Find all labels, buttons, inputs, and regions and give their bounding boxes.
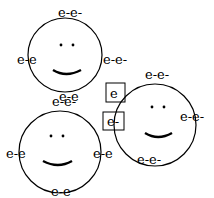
face-bottom-left xyxy=(19,111,101,193)
eye-icon xyxy=(72,44,75,47)
label: e-e- xyxy=(103,52,127,67)
face-outline xyxy=(19,111,101,193)
label: e-e- xyxy=(145,67,169,82)
eye-icon xyxy=(151,106,154,109)
smile-icon xyxy=(145,133,172,137)
eye-icon xyxy=(60,44,63,47)
box-label: e- xyxy=(107,114,119,129)
label: e-e xyxy=(93,146,113,161)
eye-icon xyxy=(62,135,65,138)
smile-icon xyxy=(43,161,72,165)
smile-icon xyxy=(53,70,81,74)
diagram-canvas: e-e- e-e e-e- e-e e-e- e-e e-e e-e e-e- … xyxy=(0,0,214,198)
label: e-e xyxy=(6,146,26,161)
label: e-e- xyxy=(58,5,82,20)
label: e-e xyxy=(51,184,71,198)
label: e-e- xyxy=(180,109,204,124)
label: e-e- xyxy=(137,152,161,167)
eye-icon xyxy=(163,106,166,109)
label: e-e- xyxy=(52,94,76,109)
box-label: e xyxy=(110,86,118,101)
label: e-e xyxy=(17,52,37,67)
face-outline xyxy=(28,18,102,92)
face-top-left xyxy=(28,18,102,92)
eye-icon xyxy=(50,135,53,138)
